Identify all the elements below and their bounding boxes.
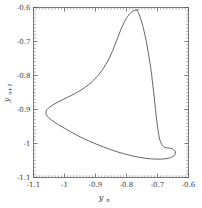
x-tick-label: -0.7 [151,181,165,189]
y-tick-label: -0.8 [17,72,31,80]
y-tick-label: -1 [24,140,31,148]
x-tick-label: -0.9 [89,181,103,189]
y-tick-label: -0.9 [17,106,31,114]
y-axis-title: y [2,97,11,103]
figure-container: -1.1-1-0.9-0.8-0.7-0.6 -1.1-1-0.9-0.8-0.… [0,0,202,208]
x-tick-label: -1 [61,181,68,189]
y-tick-label: -0.7 [17,38,31,46]
x-tick-label: -0.6 [182,181,196,189]
x-axis-title-subscript: n [106,197,110,203]
y-tick-label: -1.1 [17,174,31,182]
x-axis-title: y [98,193,104,202]
return-map-plot: -1.1-1-0.9-0.8-0.7-0.6 -1.1-1-0.9-0.8-0.… [0,0,202,208]
x-tick-label: -0.8 [120,181,134,189]
y-tick-label: -0.6 [17,4,31,12]
y-axis-title-subscript: n+1 [7,83,13,95]
